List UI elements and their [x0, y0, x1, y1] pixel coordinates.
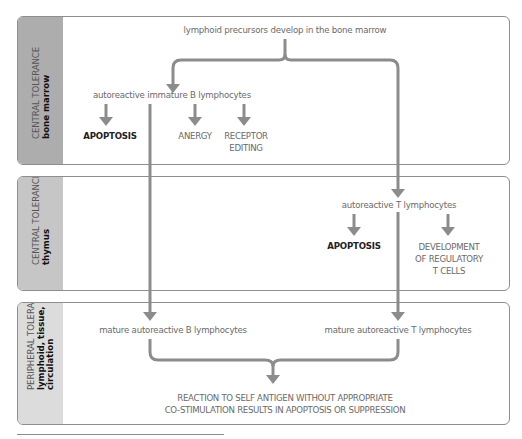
brace-mature-b: [150, 339, 273, 366]
node-b-apoptosis: APOPTOSIS: [83, 131, 137, 141]
node-origin: lymphoid precursors develop in the bone …: [184, 25, 387, 35]
node-autoreactive-t: autoreactive T lymphocytes: [342, 200, 457, 210]
arrowhead: [188, 117, 202, 126]
node-outcome: REACTION TO SELF ANTIGEN WITHOUT APPROPR…: [165, 392, 406, 416]
arrowhead: [99, 117, 113, 126]
brace-mature-t: [273, 339, 398, 366]
node-b-receptor-editing: RECEPTOR EDITING: [224, 130, 268, 154]
origin-brace-stem-right: [285, 54, 291, 60]
node-text-line: REACTION TO SELF ANTIGEN WITHOUT APPROPR…: [165, 392, 406, 404]
node-b-anergy: ANERGY: [178, 130, 211, 142]
node-text-line: T CELLS: [415, 265, 483, 277]
arrowhead: [237, 117, 251, 126]
node-text-line: EDITING: [224, 142, 268, 154]
arrowhead: [143, 312, 157, 321]
arrowhead: [266, 375, 280, 384]
flow-arrows: [0, 0, 522, 439]
arrowheads: [99, 84, 455, 384]
arrowhead: [441, 227, 455, 236]
arrowhead: [391, 189, 405, 198]
arrow-to-autoreactive-t: [291, 60, 398, 189]
node-t-apoptosis: APOPTOSIS: [327, 241, 381, 251]
footer-divider: [17, 434, 224, 435]
node-text-line: CO-STIMULATION RESULTS IN APOPTOSIS OR S…: [165, 404, 406, 416]
node-text-line: OF REGULATORY: [415, 253, 483, 265]
node-t-treg: DEVELOPMENT OF REGULATORY T CELLS: [415, 241, 483, 277]
node-mature-t: mature autoreactive T lymphocytes: [325, 325, 472, 335]
node-mature-b: mature autoreactive B lymphocytes: [99, 325, 247, 335]
node-immature-b: autoreactive immature B lymphocytes: [93, 90, 251, 100]
arrowhead: [391, 312, 405, 321]
arrowhead: [347, 227, 361, 236]
node-text-line: RECEPTOR: [224, 130, 268, 142]
arrow-to-immature-b: [173, 60, 279, 84]
node-text-line: DEVELOPMENT: [415, 241, 483, 253]
